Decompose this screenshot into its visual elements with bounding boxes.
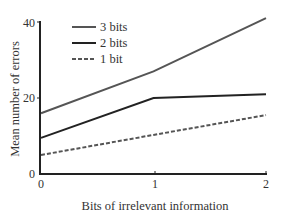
x-tick-label-0: 0 [38,177,44,191]
legend-label-1-bit: 1 bit [100,52,123,66]
y-tick-label-0: 0 [29,167,35,181]
legend-label-3-bits: 3 bits [100,20,128,34]
legend-item-2-bits: 2 bits [72,36,128,50]
legend: 3 bits 2 bits 1 bit [72,20,128,66]
legend-label-2-bits: 2 bits [100,36,128,50]
x-axis-title: Bits of irrelevant information [82,199,230,212]
x-tick-label-1: 1 [152,177,158,191]
plot-area [41,18,266,155]
y-axis-title: Mean number of errors [8,41,22,157]
y-tick-label-40: 40 [23,16,35,30]
x-axis: 0 1 2 Bits of irrelevant information [38,171,269,212]
y-tick-label-20: 20 [23,91,35,105]
y-axis: 40 20 0 Mean number of errors [8,16,40,181]
legend-item-3-bits: 3 bits [72,20,128,34]
legend-item-1-bit: 1 bit [72,52,123,66]
x-tick-label-2: 2 [263,177,269,191]
line-chart: 40 20 0 Mean number of errors 0 1 2 Bits… [0,0,285,212]
series-line-1-bit [41,115,266,155]
